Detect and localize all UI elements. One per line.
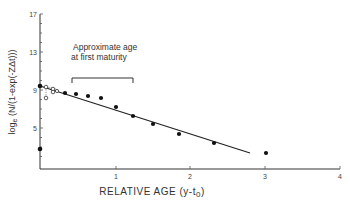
open-points (44, 85, 58, 100)
maturity-bracket (72, 78, 133, 83)
annotation-line2: at first maturity (71, 52, 127, 62)
y-axis-title: loge (N/(1-exp(-ZΔt))) (7, 50, 18, 135)
x-tick-label-4: 4 (338, 173, 342, 180)
x-tick-label-1: 1 (114, 173, 118, 180)
filled-points (38, 84, 268, 155)
annotation-line1: Approximate age (73, 42, 138, 52)
y-tick-label-13: 13 (29, 49, 37, 56)
y-tick-label-17: 17 (29, 11, 37, 18)
y-tick-label-5: 5 (33, 125, 37, 132)
x-axis-title: RELATIVE AGE (y-t0) (99, 186, 204, 199)
x-tick-label-2: 2 (188, 173, 192, 180)
regression-line (40, 86, 250, 153)
x-tick-label-3: 3 (263, 173, 267, 180)
chart: 17 13 9 5 1 2 3 4 RELATIVE AGE (y-t0) lo… (0, 0, 350, 207)
y-tick-label-9: 9 (33, 87, 37, 94)
